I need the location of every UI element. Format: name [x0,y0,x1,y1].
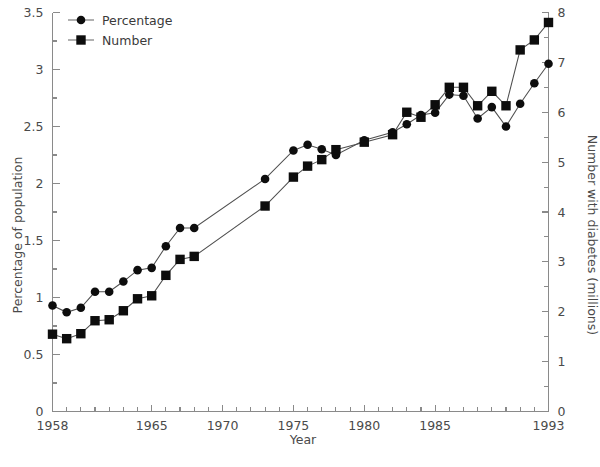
data-point-number [487,87,496,96]
data-point-percentage [402,120,411,129]
ticks-group [53,13,549,412]
x-axis-tick-label: 1970 [207,418,239,433]
x-axis-tick-label: 1993 [533,418,565,433]
data-point-number [473,101,482,110]
data-point-number [388,130,397,139]
data-point-number [133,294,142,303]
data-point-number [416,113,425,122]
y2-axis-title: Number with diabetes (millions) [585,135,600,335]
data-point-number [147,291,156,300]
x-axis-tick-label: 1958 [37,418,69,433]
data-point-number [90,316,99,325]
y2-axis-tick-label: 5 [558,155,566,170]
data-point-percentage [91,288,100,297]
data-point-percentage [133,266,142,275]
y-axis-tick-label: 0.5 [24,347,44,362]
data-point-percentage [162,242,171,251]
y2-axis-tick-label: 8 [558,5,566,20]
legend-marker-square [76,35,85,44]
y-axis-tick-label: 1 [36,290,44,305]
data-point-number [104,315,113,324]
data-point-number [402,108,411,117]
data-point-percentage [261,175,270,184]
data-point-number [190,252,199,261]
data-series-group [48,18,553,344]
legend-marker-circle [77,16,86,25]
data-point-percentage [62,308,71,317]
data-point-percentage [502,122,511,131]
data-point-number [445,83,454,92]
data-point-number [317,155,326,164]
data-point-percentage [77,303,86,312]
y-axis-title: Percentage of population [10,157,25,314]
y2-axis-tick-label: 0 [558,404,566,419]
data-point-number [459,83,468,92]
data-point-percentage [119,277,128,286]
y2-axis-tick-label: 3 [558,254,566,269]
y2-axis-tick-label: 7 [558,55,566,70]
y-axis-tick-label: 3.5 [24,5,44,20]
data-point-number [289,172,298,181]
data-point-percentage [530,79,539,88]
y2-axis-tick-label: 2 [558,304,566,319]
data-point-percentage [544,60,553,69]
data-point-number [360,137,369,146]
data-point-number [501,101,510,110]
y-axis-tick-label: 0 [36,404,44,419]
y-axis-tick-label: 1.5 [24,233,44,248]
data-point-percentage [48,301,57,310]
legend-label-number: Number [102,33,153,48]
data-point-number [76,329,85,338]
legend-label-percentage: Percentage [102,13,173,28]
x-axis-tick-label: 1975 [278,418,310,433]
chart-canvas: 195819651970197519801985199300.511.522.5… [0,0,600,467]
data-point-number [175,255,184,264]
y-axis-tick-label: 2.5 [24,119,44,134]
data-point-number [161,271,170,280]
data-point-number [331,145,340,154]
data-point-percentage [190,224,199,233]
data-point-percentage [516,99,525,108]
x-axis-tick-label: 1965 [136,418,168,433]
y2-axis-tick-label: 6 [558,105,566,120]
y-axis-tick-label: 3 [36,62,44,77]
data-point-number [515,45,524,54]
data-point-percentage [473,114,482,123]
tick-labels-group: 195819651970197519801985199300.511.522.5… [24,5,566,433]
data-point-number [544,18,553,27]
data-point-percentage [289,146,298,155]
data-point-percentage [147,264,156,273]
axes-group [53,13,549,412]
data-point-number [48,329,57,338]
data-point-number [62,334,71,343]
data-point-percentage [459,91,468,100]
y-axis-tick-label: 2 [36,176,44,191]
y2-axis-tick-label: 1 [558,354,566,369]
x-axis-tick-label: 1980 [348,418,380,433]
data-point-percentage [488,103,497,112]
diabetes-trend-chart: 195819651970197519801985199300.511.522.5… [0,0,600,467]
data-point-percentage [431,109,440,118]
data-point-number [530,35,539,44]
series-line-number [53,22,549,338]
y2-axis-tick-label: 4 [558,205,566,220]
data-point-percentage [303,140,312,149]
chart-legend: PercentageNumber [68,13,173,48]
data-point-number [260,201,269,210]
data-point-percentage [105,288,114,297]
x-axis-title: Year [289,432,317,447]
data-point-percentage [317,145,326,154]
data-point-percentage [176,224,185,233]
x-axis-tick-label: 1985 [419,418,451,433]
data-point-number [303,161,312,170]
data-point-number [430,100,439,109]
data-point-number [119,306,128,315]
